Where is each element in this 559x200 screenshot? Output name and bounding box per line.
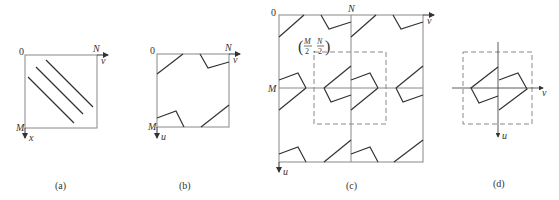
corner-segment-br: [201, 105, 229, 127]
frac-m: M: [303, 37, 312, 46]
reconstructed-left-shape: [471, 67, 498, 103]
tile-segment: [324, 140, 351, 162]
tile-segment: [351, 15, 376, 37]
v-label: v: [427, 15, 432, 26]
tile-segment: [396, 88, 423, 102]
v-label: v: [542, 87, 547, 98]
caption-d: (d): [493, 178, 505, 190]
tile-segment: [351, 147, 378, 162]
tile-segment: [393, 15, 423, 29]
origin-label: 0: [19, 46, 24, 57]
tile-segment: [279, 73, 306, 88]
origin-label: 0: [150, 45, 155, 56]
corner-segment-tl: [157, 54, 183, 74]
tile-segment: [279, 15, 304, 37]
m-label: M: [15, 122, 25, 133]
frac-n: N: [316, 37, 323, 46]
panel-a: 0 N v M x (a): [15, 43, 108, 192]
u-label: u: [283, 166, 288, 177]
frac-den: 2: [318, 47, 322, 56]
tile-segment: [279, 88, 306, 110]
center-coordinate-label: ( M 2 , N 2 ): [298, 37, 330, 56]
reconstructed-right-shape: [499, 73, 527, 110]
tile-segment: [279, 147, 306, 162]
close-paren: ): [325, 38, 330, 56]
tile-segment: [351, 73, 378, 88]
tile-segment: [351, 88, 378, 110]
m-label: M: [147, 121, 157, 132]
corner-segment-tr: [200, 54, 229, 68]
v-label: v: [233, 54, 238, 65]
corner-segment-bl: [157, 111, 184, 127]
comma: ,: [313, 44, 315, 54]
tile-segment: [394, 140, 423, 162]
tile-segment: [321, 15, 351, 29]
n-label: N: [92, 43, 101, 54]
v-label: v: [101, 55, 106, 66]
u-label: u: [502, 130, 507, 141]
figure-canvas: 0 N v M x (a) 0 N v M u (b): [0, 0, 559, 200]
diagonal-line-3: [28, 77, 74, 123]
u-label: u: [161, 131, 166, 142]
tile-segment: [396, 66, 423, 88]
panel-b: 0 N v M u (b): [147, 42, 240, 192]
tile-segment: [324, 88, 351, 102]
n-label: N: [347, 3, 356, 14]
origin-label: 0: [271, 7, 276, 18]
panel-c: 0 N v M u ( M 2 , N 2 ) (c): [267, 3, 434, 192]
open-paren: (: [298, 38, 303, 56]
caption-b: (b): [179, 180, 191, 192]
tile-segment: [324, 66, 351, 88]
n-label: N: [224, 42, 233, 53]
x-label: x: [28, 132, 34, 143]
caption-a: (a): [55, 180, 66, 192]
frac-den: 2: [305, 47, 309, 56]
caption-c: (c): [346, 180, 357, 192]
m-label: M: [267, 83, 277, 94]
panel-d: v u (d): [452, 42, 547, 190]
